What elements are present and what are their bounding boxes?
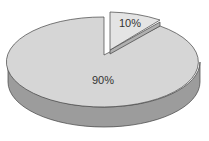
label-90: 90% [92,74,114,86]
label-10: 10% [119,17,141,29]
pie-chart: 90% 10% [0,0,209,141]
pie-slice-90-top [6,17,198,107]
